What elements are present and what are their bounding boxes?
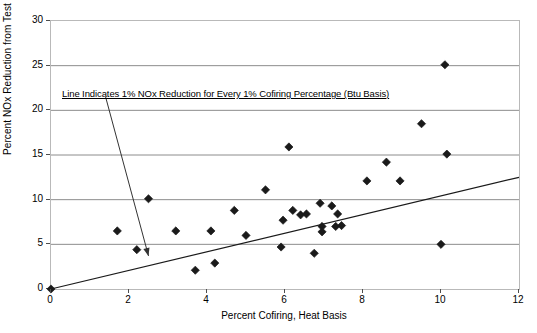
plot-area — [50, 20, 520, 290]
x-axis-label: Percent Cofiring, Heat Basis — [50, 310, 518, 321]
annotation-arrowhead — [143, 247, 149, 256]
annotation-arrow — [51, 21, 519, 289]
x-tick-label: 6 — [281, 295, 287, 305]
y-tick-label: 10 — [32, 194, 43, 204]
x-tick-label: 0 — [47, 295, 53, 305]
plot-inner — [51, 21, 519, 289]
x-tick-label: 4 — [203, 295, 209, 305]
x-tick-label: 8 — [359, 295, 365, 305]
y-tick-label: 0 — [37, 283, 43, 293]
x-tick-mark — [518, 289, 519, 293]
y-axis-label: Percent NOx Reduction from Test Baseline — [2, 0, 13, 155]
reference-line-annotation: Line Indicates 1% NOx Reduction for Ever… — [62, 88, 389, 99]
x-tick-mark — [128, 289, 129, 293]
x-tick-mark — [284, 289, 285, 293]
y-tick-label: 5 — [37, 238, 43, 248]
x-tick-mark — [206, 289, 207, 293]
scatter-chart-figure: Percent NOx Reduction from Test Baseline… — [0, 0, 537, 333]
y-tick-label: 25 — [32, 60, 43, 70]
y-tick-label: 30 — [32, 15, 43, 25]
x-tick-mark — [440, 289, 441, 293]
y-tick-label: 20 — [32, 104, 43, 114]
x-tick-mark — [50, 289, 51, 293]
y-tick-label: 15 — [32, 149, 43, 159]
x-tick-mark — [362, 289, 363, 293]
x-tick-label: 12 — [512, 295, 523, 305]
x-tick-label: 10 — [434, 295, 445, 305]
x-tick-label: 2 — [125, 295, 131, 305]
annotation-leader-line — [106, 97, 149, 256]
